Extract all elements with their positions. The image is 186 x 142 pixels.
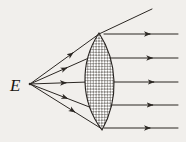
optics-figure: E xyxy=(0,0,186,142)
source-label-E: E xyxy=(9,76,21,95)
optics-diagram-canvas: E xyxy=(0,0,186,142)
source-point-dot xyxy=(29,83,32,86)
source-point-marker xyxy=(29,83,32,86)
